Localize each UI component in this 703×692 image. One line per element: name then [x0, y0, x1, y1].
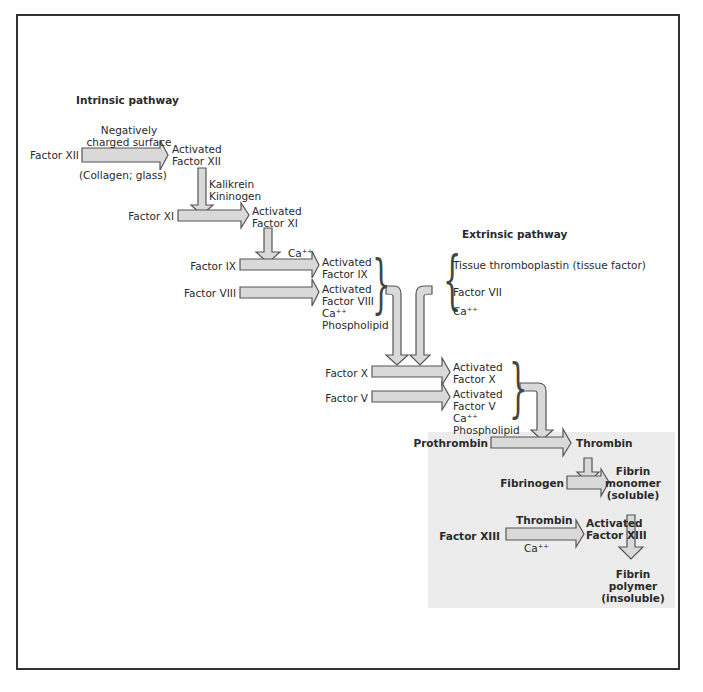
factor-viii-label: Factor VIII [170, 287, 236, 300]
common-brace: } [509, 348, 527, 428]
fibrin-monomer-label-1: Fibrin [604, 465, 662, 478]
thrombin-cofactor-label: Thrombin [516, 514, 573, 527]
factor-xii-label: Factor XII [30, 149, 78, 162]
activated-viii-label-2: Factor VIII [322, 295, 374, 308]
fibrin-monomer-label-3: (soluble) [604, 489, 662, 502]
activated-ix-label-1: Activated [322, 256, 372, 269]
fibrinogen-label: Fibrinogen [490, 477, 564, 490]
factor-v-label: Factor V [310, 392, 368, 405]
activated-xii-label-1: Activated [172, 143, 222, 156]
kalikrein-label: Kalikrein [209, 178, 254, 191]
activated-ix-label-2: Factor IX [322, 268, 368, 281]
activated-xiii-label-2: Factor XIII [586, 529, 647, 542]
kininogen-label: Kininogen [209, 190, 261, 203]
intrinsic-pathway-title: Intrinsic pathway [76, 94, 179, 107]
activated-xiii-label-1: Activated [586, 517, 643, 530]
calcium-label: Ca⁺⁺ [288, 247, 313, 260]
intrinsic-brace: } [372, 244, 390, 324]
collagen-label: (Collagen; glass) [79, 169, 167, 182]
xiii-calcium-label: Ca⁺⁺ [524, 542, 549, 555]
factor-x-label: Factor X [310, 367, 368, 380]
activated-x-label-1: Activated [453, 361, 503, 374]
activated-v-label-2: Factor V [453, 400, 496, 413]
extrinsic-pathway-title: Extrinsic pathway [462, 228, 567, 241]
activated-xi-label-1: Activated [252, 205, 302, 218]
factor-ix-label: Factor IX [180, 260, 236, 273]
activated-viii-label-1: Activated [322, 283, 372, 296]
arrow-right-icon [178, 203, 249, 228]
arrow-right-icon [240, 279, 319, 306]
fibrin-polymer-label-2: polymer [600, 580, 666, 593]
thrombin-label: Thrombin [576, 437, 633, 450]
activated-v-label-3: Ca⁺⁺ [453, 412, 478, 425]
activated-x-label-2: Factor X [453, 373, 496, 386]
extrinsic-calcium-label: Ca⁺⁺ [453, 305, 478, 318]
arrow-down-icon [256, 228, 280, 263]
factor-vii-label: Factor VII [453, 286, 502, 299]
surface-label-2: charged surface [78, 136, 180, 149]
factor-xiii-label: Factor XIII [430, 530, 500, 543]
surface-label-1: Negatively [78, 124, 180, 137]
arrow-right-icon [372, 358, 450, 385]
tissue-factor-label: Tissue thromboplastin (tissue factor) [453, 259, 646, 272]
factor-xi-label: Factor XI [120, 210, 174, 223]
fibrin-monomer-label-2: monomer [604, 477, 662, 490]
activated-viii-label-3: Ca⁺⁺ [322, 307, 347, 320]
arrow-right-icon [372, 383, 450, 410]
prothrombin-label: Prothrombin [400, 437, 488, 450]
activated-xii-label-2: Factor XII [172, 155, 221, 168]
fibrin-polymer-label-3: (insoluble) [600, 592, 666, 605]
activated-xi-label-2: Factor XI [252, 217, 298, 230]
arrow-curved-down-icon [410, 286, 432, 365]
fibrin-polymer-label-1: Fibrin [600, 568, 666, 581]
activated-v-label-1: Activated [453, 388, 503, 401]
